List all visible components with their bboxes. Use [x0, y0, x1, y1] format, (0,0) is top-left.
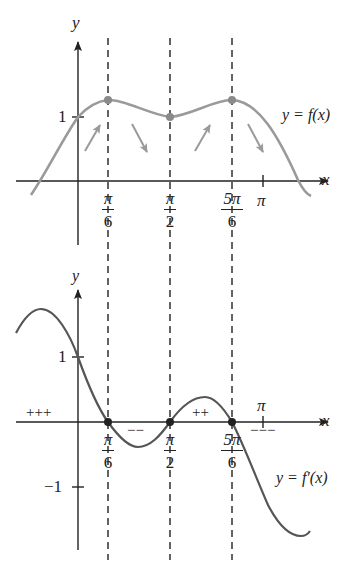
- top-y-tick-label-1: 1: [58, 108, 67, 125]
- top-tick-pi-over-6: π 6: [88, 190, 128, 230]
- bottom-tick-pi-over-6: π 6: [88, 431, 128, 471]
- f-prime-curve-label: y = f′(x): [276, 470, 328, 486]
- tick-denominator: 6: [212, 451, 252, 471]
- sign-negative-1: −−: [127, 423, 144, 438]
- zero-pi-over-2: [166, 418, 174, 426]
- tick-denominator: 2: [150, 210, 190, 230]
- increasing-arrow-icon: [85, 125, 100, 151]
- point-min-pi-over-2: [166, 113, 174, 121]
- point-max-5pi-over-6: [228, 96, 236, 104]
- decreasing-arrow-icon: [248, 124, 263, 152]
- bottom-y-tick-label-1: 1: [58, 348, 67, 365]
- zero-5pi-over-6: [228, 418, 236, 426]
- top-tick-5pi-over-6: 5π 6: [212, 190, 252, 230]
- bottom-tick-pi: π: [257, 397, 266, 414]
- bottom-graph: [16, 290, 328, 550]
- top-tick-pi-over-2: π 2: [150, 190, 190, 230]
- top-y-axis-label: y: [72, 14, 80, 31]
- tick-numerator: 5π: [221, 431, 242, 451]
- bottom-tick-pi-over-2: π 2: [150, 431, 190, 471]
- top-tick-pi: π: [257, 192, 266, 209]
- f-curve-label: y = f(x): [282, 107, 330, 123]
- top-x-axis-label: x: [322, 171, 330, 188]
- tick-denominator: 2: [150, 451, 190, 471]
- bottom-y-tick-label-neg1: −1: [44, 478, 62, 495]
- sign-positive-2: ++: [192, 405, 209, 420]
- tick-numerator: π: [102, 431, 115, 451]
- sign-positive-1: +++: [26, 405, 51, 420]
- zero-pi-over-6: [104, 418, 112, 426]
- tick-numerator: π: [164, 431, 177, 451]
- tick-denominator: 6: [212, 210, 252, 230]
- tick-numerator: π: [164, 190, 177, 210]
- sign-negative-2: −−−: [250, 423, 275, 438]
- tick-denominator: 6: [88, 451, 128, 471]
- point-max-pi-over-6: [104, 96, 112, 104]
- tick-numerator: π: [102, 190, 115, 210]
- bottom-y-axis-label: y: [72, 268, 79, 284]
- bottom-tick-5pi-over-6: 5π 6: [212, 431, 252, 471]
- tick-denominator: 6: [88, 210, 128, 230]
- increasing-arrow-icon: [195, 125, 210, 151]
- decreasing-arrow-icon: [132, 124, 147, 152]
- tick-numerator: 5π: [221, 190, 242, 210]
- bottom-x-axis-label: x: [322, 412, 330, 429]
